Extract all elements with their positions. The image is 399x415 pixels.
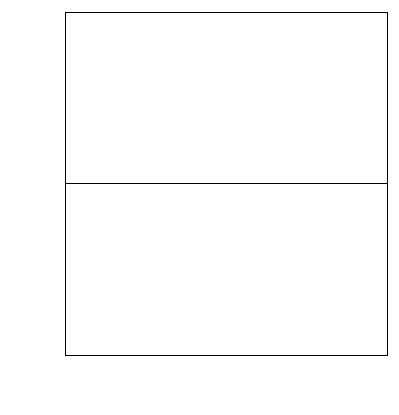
figure-container — [0, 0, 399, 415]
plot-svg — [0, 0, 399, 415]
top-panel-frame — [66, 13, 388, 184]
bottom-panel-frame — [66, 184, 388, 356]
